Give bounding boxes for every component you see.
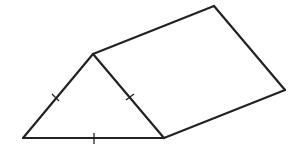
triangle-right-side	[93, 54, 164, 138]
congruence-tick-marks	[52, 94, 134, 144]
back-right-edge	[214, 6, 285, 90]
prism-edges	[23, 6, 285, 138]
top-edge	[93, 6, 214, 54]
triangular-prism-diagram	[0, 0, 296, 150]
triangle-left-side	[23, 54, 93, 138]
bottom-right-edge	[164, 90, 285, 138]
